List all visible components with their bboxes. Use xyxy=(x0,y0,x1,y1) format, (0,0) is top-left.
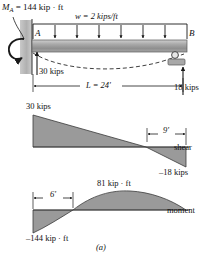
shear-negative-value-label: –18 kips xyxy=(159,168,188,177)
node-label-b: B xyxy=(189,29,195,38)
reaction-right-label: 18 kips xyxy=(174,83,199,92)
shear-positive-value-label: 30 kips xyxy=(26,102,51,111)
reaction-left-label: 30 kips xyxy=(39,67,64,76)
beam-member xyxy=(32,40,187,52)
fixed-support-wall xyxy=(20,19,32,75)
applied-moment-value: = 144 kip · ft xyxy=(16,2,64,12)
distributed-load xyxy=(33,24,187,39)
moment-max-value-label: 81 kip · ft xyxy=(97,179,131,188)
moment-dimension-label: 6' xyxy=(50,190,56,199)
shear-diagram xyxy=(33,115,190,167)
applied-moment-subscript: A xyxy=(10,6,14,13)
distributed-load-label: w = 2 kips/ft xyxy=(75,12,118,21)
shear-positive-area xyxy=(33,115,146,147)
moment-diagram-title: moment xyxy=(167,206,195,215)
figure-caption: (a) xyxy=(96,243,106,252)
applied-moment-label: MA = 144 kip · ft xyxy=(2,3,63,13)
applied-moment-symbol: M xyxy=(2,2,10,12)
shear-diagram-title: shear xyxy=(174,143,192,152)
node-label-a: A xyxy=(35,29,41,38)
shear-dimension-label: 9' xyxy=(163,126,169,135)
figure-graphics xyxy=(0,0,205,257)
moment-min-value-label: –144 kip · ft xyxy=(26,234,68,243)
moment-negative-area xyxy=(33,210,73,233)
span-length-label: L = 24' xyxy=(86,81,111,90)
load-arrow xyxy=(55,25,165,38)
beam-shear-moment-figure: MA = 144 kip · ft w = 2 kips/ft A B 30 k… xyxy=(0,0,205,257)
